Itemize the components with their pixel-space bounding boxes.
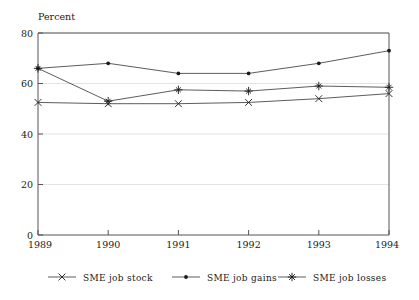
data-point-sme-job-losses-1993: [315, 82, 323, 90]
y-tick-labels: 80 60 40 20 0: [21, 28, 33, 241]
x-tick-label-1993: 1993: [307, 239, 331, 250]
x-tick-marks: [38, 230, 389, 235]
data-point-sme-job-losses-1989: [34, 64, 42, 72]
data-point-sme-job-gains-1992: [247, 72, 251, 76]
legend-item-sme-job-gains[interactable]: SME job gains: [172, 273, 277, 283]
data-series-layer: [34, 49, 393, 107]
legend-item-sme-job-losses[interactable]: SME job losses: [278, 273, 386, 283]
gridlines: [38, 33, 389, 185]
legend-label-sme-job-stock: SME job stock: [83, 273, 153, 283]
series-path-sme-job-stock: [38, 94, 389, 104]
x-tick-label-1991: 1991: [166, 239, 190, 250]
star-marker-icon: [288, 273, 296, 281]
x-tick-label-1994: 1994: [375, 239, 399, 250]
chart-container: Percent 80 60 40 20: [0, 0, 419, 300]
data-point-sme-job-gains-1993: [317, 61, 321, 65]
y-tick-label-60: 60: [21, 78, 33, 89]
series-sme-job-stock: [35, 90, 393, 107]
series-path-sme-job-gains: [38, 51, 389, 74]
line-chart-svg: Percent 80 60 40 20: [0, 0, 419, 300]
legend-label-sme-job-gains: SME job gains: [207, 273, 277, 283]
y-tick-marks: [38, 33, 43, 235]
data-point-sme-job-gains-1994: [387, 49, 391, 53]
x-tick-labels: 1989 1990 1991 1992 1993 1994: [28, 239, 399, 250]
y-tick-label-40: 40: [21, 129, 33, 140]
x-tick-label-1990: 1990: [96, 239, 120, 250]
y-tick-label-80: 80: [21, 28, 33, 39]
data-point-sme-job-losses-1992: [244, 87, 252, 95]
data-point-sme-job-losses-1991: [174, 86, 182, 94]
x-tick-label-1989: 1989: [28, 239, 52, 250]
series-sme-job-losses: [34, 64, 393, 105]
x-tick-label-1992: 1992: [237, 239, 261, 250]
y-tick-label-20: 20: [21, 179, 33, 190]
dot-marker-icon: [184, 275, 188, 279]
legend-item-sme-job-stock[interactable]: SME job stock: [48, 273, 153, 283]
legend-label-sme-job-losses: SME job losses: [313, 273, 386, 283]
y-axis-title: Percent: [38, 11, 75, 22]
chart-legend: SME job stock SME job gains SME job loss…: [48, 273, 386, 283]
data-point-sme-job-gains-1991: [177, 72, 181, 76]
series-sme-job-gains: [36, 49, 391, 76]
data-point-sme-job-gains-1990: [106, 61, 110, 65]
